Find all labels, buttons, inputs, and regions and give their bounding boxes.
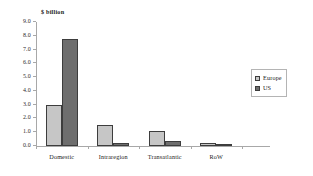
y-axis-tick-label: 6.0: [23, 58, 31, 66]
bar-europe-domestic: [46, 105, 62, 146]
y-axis-tick-label: 2.0: [23, 113, 31, 121]
y-axis-tick-label: 3.0: [23, 100, 31, 108]
chart-axis-title: $ billion: [41, 7, 64, 16]
chart-legend: Europe US: [251, 69, 287, 97]
bar-europe-transatlantic: [149, 131, 165, 146]
y-axis-tick-label: 5.0: [23, 72, 31, 80]
legend-label-europe: Europe: [263, 74, 282, 82]
bar-chart: $ billion 0.01.02.03.04.05.06.07.08.09.0…: [0, 0, 313, 176]
x-axis-line: [36, 146, 270, 147]
legend-swatch-icon-us: [255, 86, 260, 91]
bar-europe-intraregion: [97, 125, 113, 146]
y-axis-tick-label: 0.0: [23, 141, 31, 149]
plot-area: [36, 22, 242, 146]
bar-us-transatlantic: [165, 141, 181, 146]
x-axis-label-row: RoW: [191, 152, 243, 161]
x-axis-label-domestic: Domestic: [36, 152, 88, 161]
legend-item-europe: Europe: [255, 73, 282, 83]
y-axis-tick-label: 8.0: [23, 31, 31, 39]
x-axis-label-transatlantic: Transatlantic: [139, 152, 191, 161]
y-axis-tick-label: 7.0: [23, 45, 31, 53]
legend-item-us: US: [255, 83, 282, 93]
x-axis-tick-mark: [242, 146, 243, 149]
y-axis-tick-label: 4.0: [23, 86, 31, 94]
x-axis-tick-mark: [139, 146, 140, 149]
x-axis-label-intraregion: Intraregion: [88, 152, 140, 161]
bar-us-intraregion: [113, 143, 129, 146]
bar-us-row: [216, 144, 232, 146]
y-axis-tick-label: 1.0: [23, 127, 31, 135]
x-axis-tick-mark: [191, 146, 192, 149]
bar-us-domestic: [62, 39, 78, 146]
y-axis-tick-label: 9.0: [23, 17, 31, 25]
legend-label-us: US: [263, 84, 271, 92]
legend-swatch-icon-europe: [255, 76, 260, 81]
bar-europe-row: [200, 143, 216, 146]
x-axis-tick-mark: [36, 146, 37, 149]
x-axis-tick-mark: [88, 146, 89, 149]
